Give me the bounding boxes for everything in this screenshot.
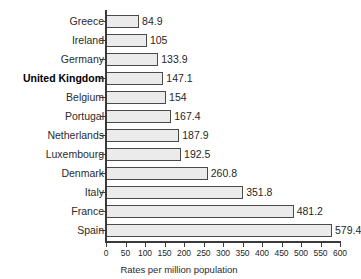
bar-row: Italy351.8 <box>0 183 358 202</box>
bar <box>106 224 332 237</box>
x-axis-tick <box>340 242 341 247</box>
category-label-luxembourg: Luxembourg <box>46 145 104 164</box>
bar <box>106 110 171 123</box>
category-label-germany: Germany <box>61 50 104 69</box>
bar <box>106 186 243 199</box>
bar <box>106 167 208 180</box>
x-axis-tick <box>321 242 322 247</box>
bar <box>106 129 179 142</box>
bar <box>106 91 166 104</box>
x-axis-tick <box>243 242 244 247</box>
x-axis-tick-label: 200 <box>177 248 191 258</box>
x-axis-tick-label: 0 <box>104 248 109 258</box>
x-axis-tick <box>145 242 146 247</box>
x-axis-tick-label: 350 <box>235 248 249 258</box>
bar-row: Greece84.9 <box>0 12 358 31</box>
bar-value-label: 351.8 <box>246 183 272 202</box>
bar-row: Portugal167.4 <box>0 107 358 126</box>
bar-value-label: 579.4 <box>335 221 361 240</box>
x-axis-tick-label: 500 <box>294 248 308 258</box>
bar-row: Germany133.9 <box>0 50 358 69</box>
bar-row: Luxembourg192.5 <box>0 145 358 164</box>
bar-row: United Kingdom147.1 <box>0 69 358 88</box>
category-label-denmark: Denmark <box>61 164 104 183</box>
category-label-belgium: Belgium <box>66 88 104 107</box>
x-axis-tick <box>204 242 205 247</box>
x-axis-tick-label: 100 <box>138 248 152 258</box>
x-axis-tick <box>106 242 107 247</box>
bar-row: Netherlands187.9 <box>0 126 358 145</box>
x-axis-title: Rates per million population <box>0 264 358 275</box>
x-axis-tick <box>262 242 263 247</box>
y-axis-line <box>105 10 107 241</box>
bar <box>106 72 163 85</box>
category-label-greece: Greece <box>70 12 104 31</box>
x-axis-tick <box>165 242 166 247</box>
bar-value-label: 133.9 <box>161 50 187 69</box>
bar-row: Denmark260.8 <box>0 164 358 183</box>
x-axis-tick-label: 550 <box>313 248 327 258</box>
bar <box>106 205 294 218</box>
bar-row: Ireland105 <box>0 31 358 50</box>
bar <box>106 53 158 66</box>
bar-value-label: 260.8 <box>211 164 237 183</box>
bar-row: Belgium154 <box>0 88 358 107</box>
x-axis-tick <box>223 242 224 247</box>
category-label-netherlands: Netherlands <box>47 126 104 145</box>
category-label-portugal: Portugal <box>65 107 104 126</box>
x-axis-tick <box>184 242 185 247</box>
category-label-united-kingdom: United Kingdom <box>23 69 104 88</box>
x-axis-tick-label: 150 <box>157 248 171 258</box>
x-axis-tick-label: 50 <box>121 248 130 258</box>
bar-value-label: 154 <box>169 88 187 107</box>
x-axis-tick <box>126 242 127 247</box>
bar <box>106 148 181 161</box>
bar-row: France481.2 <box>0 202 358 221</box>
bar-value-label: 105 <box>150 31 168 50</box>
bar-value-label: 187.9 <box>182 126 208 145</box>
bar-value-label: 481.2 <box>297 202 323 221</box>
bar-value-label: 192.5 <box>184 145 210 164</box>
x-axis-tick <box>282 242 283 247</box>
x-axis-tick-label: 450 <box>274 248 288 258</box>
bar-value-label: 147.1 <box>166 69 192 88</box>
x-axis-tick-label: 250 <box>196 248 210 258</box>
x-axis-tick-label: 600 <box>333 248 347 258</box>
bar <box>106 15 139 28</box>
x-axis-tick <box>301 242 302 247</box>
bar <box>106 34 147 47</box>
x-axis-tick-label: 300 <box>216 248 230 258</box>
bar-row: Spain579.4 <box>0 221 358 240</box>
bar-value-label: 84.9 <box>142 12 162 31</box>
x-axis-tick-label: 400 <box>255 248 269 258</box>
bar-value-label: 167.4 <box>174 107 200 126</box>
